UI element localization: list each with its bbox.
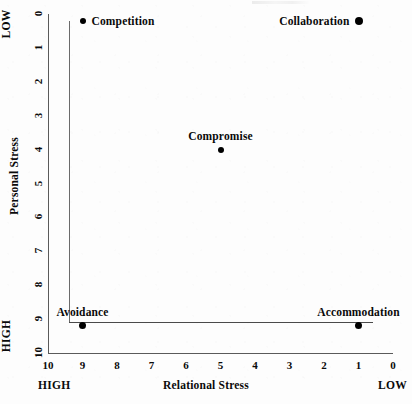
connector-avoidance-accommodation <box>69 322 373 323</box>
data-point-compromise <box>218 147 224 153</box>
x-tick-2: 2 <box>314 359 334 371</box>
y-tick-8: 8 <box>32 274 45 296</box>
x-axis-title: Relational Stress <box>0 379 412 391</box>
x-tick-3: 3 <box>280 359 300 371</box>
y-tick-3: 3 <box>32 104 45 126</box>
x-axis-low-marker: LOW <box>378 379 407 391</box>
y-tick-0: 0 <box>32 3 45 25</box>
y-tick-6: 6 <box>32 206 45 228</box>
x-tick-9: 9 <box>73 359 93 371</box>
y-tick-2: 2 <box>32 70 45 92</box>
x-tick-8: 8 <box>107 359 127 371</box>
data-point-collaboration <box>355 17 363 25</box>
y-axis-title: Personal Stress <box>8 126 20 226</box>
x-tick-7: 7 <box>142 359 162 371</box>
y-axis-high-marker: HIGH <box>0 316 12 356</box>
y-axis-low-marker: LOW <box>0 4 12 44</box>
data-point-avoidance <box>79 322 86 329</box>
scan-artifact <box>252 1 310 4</box>
x-tick-0: 0 <box>383 359 403 371</box>
y-axis-line <box>48 14 49 353</box>
data-label-competition: Competition <box>92 15 155 27</box>
x-tick-1: 1 <box>349 359 369 371</box>
y-tick-7: 7 <box>32 240 45 262</box>
connector-competition-avoidance <box>69 21 70 323</box>
data-point-competition <box>80 18 86 24</box>
data-label-compromise: Compromise <box>188 130 253 142</box>
y-tick-4: 4 <box>32 138 45 160</box>
data-label-accommodation: Accommodation <box>317 306 399 318</box>
conflict-styles-scatter-plot: 109876543210 012345678910 CompetitionCol… <box>0 0 412 404</box>
y-tick-1: 1 <box>32 36 45 58</box>
x-tick-5: 5 <box>211 359 231 371</box>
x-tick-4: 4 <box>245 359 265 371</box>
y-tick-10: 10 <box>32 342 45 364</box>
x-tick-6: 6 <box>176 359 196 371</box>
data-label-avoidance: Avoidance <box>56 306 108 318</box>
data-point-accommodation <box>355 322 362 329</box>
data-label-collaboration: Collaboration <box>279 15 349 27</box>
paper-grain-texture <box>0 0 412 404</box>
y-tick-9: 9 <box>32 308 45 330</box>
y-tick-5: 5 <box>32 172 45 194</box>
x-axis-line <box>48 353 393 354</box>
